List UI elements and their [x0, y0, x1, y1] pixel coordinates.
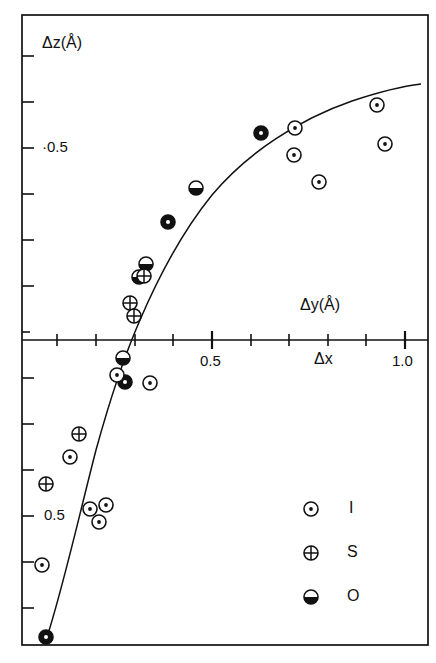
legend-symbol-S	[304, 546, 318, 560]
x-tick-label-half: 0.5	[200, 352, 221, 369]
series-S-points	[39, 269, 151, 491]
legend-markers	[304, 502, 318, 604]
x-secondary-label: Δx	[314, 350, 333, 368]
scatter-plot	[0, 0, 436, 663]
y-axis-label-text: Δz(Å)	[42, 34, 82, 51]
y-axis-ticks	[22, 56, 34, 608]
y-tick-label-lower: 0.5	[44, 506, 65, 523]
x-tick-label-one: 1.0	[392, 352, 413, 369]
legend-label-S: S	[347, 543, 358, 561]
y-axis-label: Δz(Å)	[42, 34, 82, 52]
plot-frame	[22, 15, 428, 645]
figure-container: Δz(Å) Δy(Å) ·0.5 0.5 0.5 1.0 Δx I S O	[0, 0, 436, 663]
legend-symbol-I	[304, 502, 318, 516]
series-I-points	[35, 98, 392, 572]
legend-label-I: I	[349, 499, 353, 517]
x-axis-label-text: Δy(Å)	[300, 296, 340, 313]
legend-symbol-O	[304, 590, 318, 604]
y-tick-label-upper: ·0.5	[42, 138, 68, 155]
x-zero-axis	[22, 331, 428, 349]
fitted-curve	[45, 84, 421, 643]
x-axis-label: Δy(Å)	[300, 296, 340, 314]
legend-label-O: O	[347, 587, 359, 605]
